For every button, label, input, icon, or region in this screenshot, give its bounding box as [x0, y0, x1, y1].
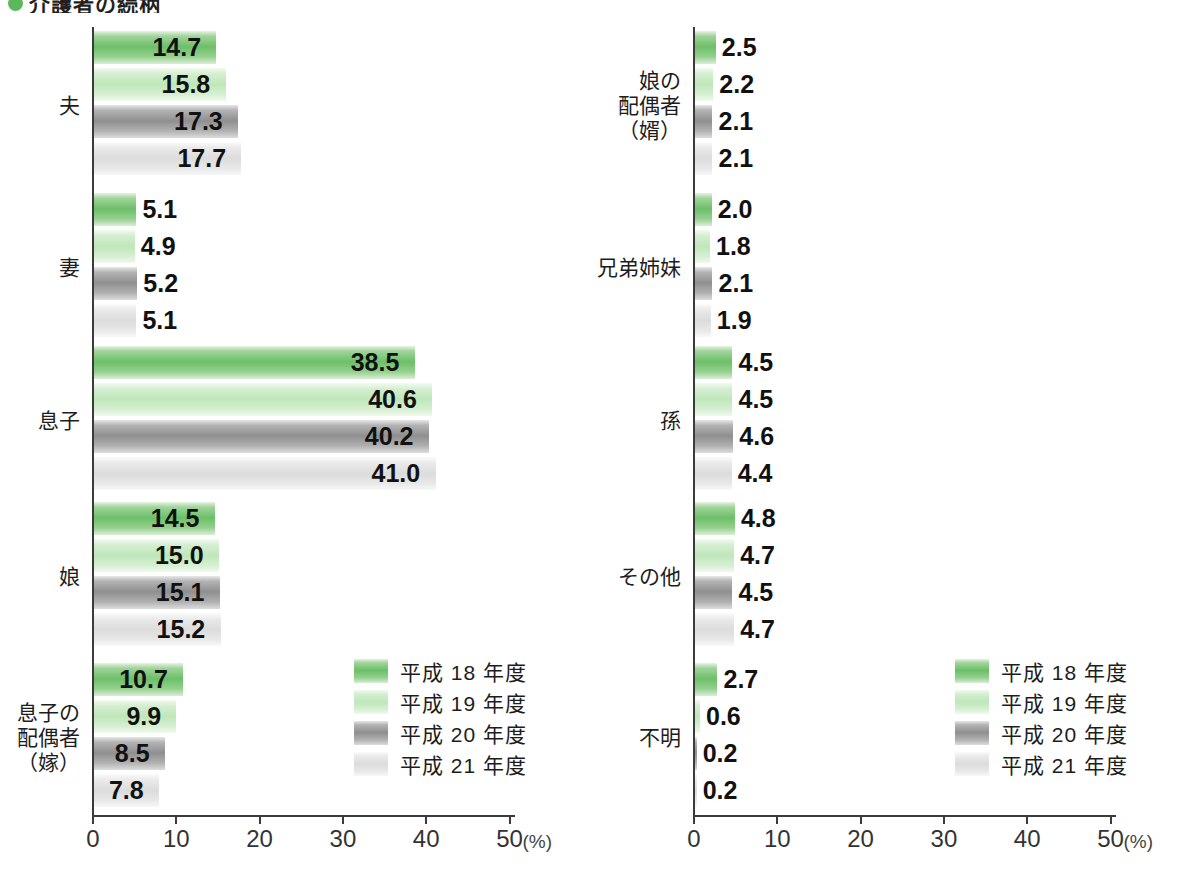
bar-value-label: 0.2 [703, 737, 738, 770]
bar-value-label: 17.7 [177, 142, 226, 175]
bar [695, 539, 734, 572]
x-axis-tick [509, 815, 511, 824]
bar-fill [695, 68, 713, 101]
category-label: 娘 [0, 564, 80, 589]
legend: 平成 18 年度平成 19 年度平成 20 年度平成 21 年度 [955, 655, 1128, 779]
legend-label: 平成 18 年度 [1001, 656, 1128, 686]
legend-item[interactable]: 平成 21 年度 [955, 748, 1128, 779]
bar-fill [695, 737, 697, 770]
bar-value-label: 8.5 [115, 737, 150, 770]
x-axis-tick-label: 20 [246, 825, 273, 853]
bar-value-label: 9.9 [126, 700, 161, 733]
bullet-icon [8, 0, 23, 11]
bar [695, 663, 717, 696]
x-axis-tick [259, 815, 261, 824]
bar [695, 457, 732, 490]
legend-label: 平成 20 年度 [1001, 718, 1128, 748]
bar [94, 267, 137, 300]
x-axis-tick-label: 20 [847, 825, 874, 853]
x-axis-tick [860, 815, 862, 824]
bar-value-label: 40.2 [365, 420, 414, 453]
bar-value-label: 4.4 [738, 457, 773, 490]
bar-fill [695, 142, 712, 175]
x-axis-tick [1026, 815, 1028, 824]
x-axis-line [92, 815, 515, 817]
legend-swatch [955, 659, 989, 683]
x-axis-tick [92, 815, 94, 824]
x-axis-tick-label: 0 [687, 825, 700, 853]
legend-item[interactable]: 平成 19 年度 [354, 686, 527, 717]
x-axis-tick [342, 815, 344, 824]
x-axis-tick-label: 30 [931, 825, 958, 853]
x-axis-tick [693, 815, 695, 824]
legend-swatch [354, 721, 388, 745]
bar-value-label: 17.3 [174, 105, 223, 138]
x-axis-line [693, 815, 1116, 817]
bar-value-label: 4.9 [141, 230, 176, 263]
bar-fill [695, 346, 732, 379]
bar-value-label: 4.5 [738, 383, 773, 416]
bar-value-label: 2.2 [719, 68, 754, 101]
legend-swatch [354, 659, 388, 683]
bar-value-label: 4.6 [739, 420, 774, 453]
bar-value-label: 14.7 [152, 31, 201, 64]
category-label: 息子の 配偶者 （嫁） [0, 700, 80, 775]
legend-label: 平成 18 年度 [400, 656, 527, 686]
bar-value-label: 0.6 [706, 700, 741, 733]
x-axis-unit-label: (%) [523, 831, 553, 853]
bar [695, 267, 712, 300]
bar-value-label: 15.0 [155, 539, 204, 572]
legend-swatch [354, 690, 388, 714]
bar-fill [695, 420, 733, 453]
legend-item[interactable]: 平成 20 年度 [354, 717, 527, 748]
bar-value-label: 5.1 [142, 304, 177, 337]
bar-fill [94, 267, 137, 300]
legend-item[interactable]: 平成 20 年度 [955, 717, 1128, 748]
bar [695, 142, 712, 175]
bar-value-label: 38.5 [351, 346, 400, 379]
bar-value-label: 4.5 [738, 576, 773, 609]
x-axis-tick-label: 0 [86, 825, 99, 853]
x-axis-tick-label: 10 [163, 825, 190, 853]
bar-value-label: 1.9 [717, 304, 752, 337]
page-title-strip: 介護者の続柄 [0, 0, 1180, 13]
x-axis-tick [175, 815, 177, 824]
category-label: 兄弟姉妹 [553, 255, 681, 280]
bar-value-label: 40.6 [368, 383, 417, 416]
x-axis-tick-label: 40 [413, 825, 440, 853]
bar-value-label: 1.8 [716, 230, 751, 263]
legend-swatch [354, 752, 388, 776]
bar [94, 230, 135, 263]
legend-item[interactable]: 平成 21 年度 [354, 748, 527, 779]
bar-fill [695, 576, 732, 609]
bar-value-label: 2.0 [718, 193, 753, 226]
category-label: その他 [553, 564, 681, 589]
category-label: 不明 [553, 725, 681, 750]
bar [695, 502, 735, 535]
bar [94, 304, 136, 337]
bar-fill [695, 267, 712, 300]
bar-fill [695, 304, 711, 337]
bar-value-label: 7.8 [109, 774, 144, 807]
legend-swatch [955, 690, 989, 714]
bar [695, 576, 732, 609]
category-label: 妻 [0, 255, 80, 280]
legend-item[interactable]: 平成 19 年度 [955, 686, 1128, 717]
x-axis-tick-label: 40 [1014, 825, 1041, 853]
legend-item[interactable]: 平成 18 年度 [354, 655, 527, 686]
x-axis-tick [943, 815, 945, 824]
bar [695, 68, 713, 101]
bar-value-label: 2.5 [722, 31, 757, 64]
bar-value-label: 14.5 [151, 502, 200, 535]
bar-fill [695, 31, 716, 64]
bar-fill [695, 700, 700, 733]
x-axis-tick [776, 815, 778, 824]
legend-label: 平成 21 年度 [400, 749, 527, 779]
category-label: 孫 [553, 408, 681, 433]
legend-item[interactable]: 平成 18 年度 [955, 655, 1128, 686]
bar-fill [695, 663, 717, 696]
legend-swatch [955, 752, 989, 776]
chart-panel-right: 01020304050(%)娘の 配偶者 （婿）2.52.22.12.1兄弟姉妹… [600, 13, 1180, 875]
bar-value-label: 0.2 [703, 774, 738, 807]
bar-value-label: 4.7 [740, 613, 775, 646]
